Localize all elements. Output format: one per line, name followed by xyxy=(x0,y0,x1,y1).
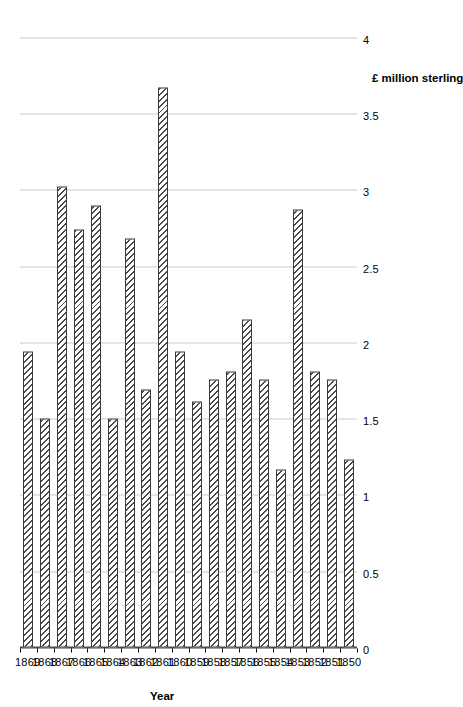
bar-1857 xyxy=(226,371,236,647)
plot-box xyxy=(20,38,357,648)
value-axis-title: £ million sterling xyxy=(372,71,463,83)
value-tick-label-4: 4 xyxy=(363,34,369,45)
category-tick xyxy=(87,648,88,652)
category-tick xyxy=(323,648,324,652)
bar-1865 xyxy=(91,205,101,647)
category-tick xyxy=(205,648,206,652)
bar-1850 xyxy=(344,459,354,647)
bar-1859 xyxy=(192,401,202,647)
category-tick xyxy=(172,648,173,652)
bar-1853 xyxy=(293,209,303,647)
category-tick xyxy=(357,648,358,652)
category-tick xyxy=(222,648,223,652)
value-tick-label-2.5: 2.5 xyxy=(363,263,379,274)
bar-1867 xyxy=(57,186,67,647)
bar-1852 xyxy=(310,371,320,647)
bar-1868 xyxy=(40,418,50,647)
bar-1860 xyxy=(175,351,185,647)
value-tick-label-3: 3 xyxy=(363,187,369,198)
category-tick xyxy=(340,648,341,652)
category-tick xyxy=(121,648,122,652)
value-tick-label-0: 0 xyxy=(363,644,369,655)
bar-1866 xyxy=(74,229,84,647)
bar-1855 xyxy=(259,379,269,647)
value-tick-label-1: 1 xyxy=(363,492,369,503)
value-tick-label-2: 2 xyxy=(363,339,369,350)
value-tick-label-0.5: 0.5 xyxy=(363,568,379,579)
category-tick xyxy=(155,648,156,652)
bar-series xyxy=(20,38,357,648)
bar-1869 xyxy=(23,351,33,647)
category-tick xyxy=(104,648,105,652)
category-tick xyxy=(37,648,38,652)
bar-1858 xyxy=(209,379,219,647)
bar-1856 xyxy=(242,319,252,647)
bar-1863 xyxy=(125,238,135,647)
category-tick xyxy=(273,648,274,652)
category-axis-title: Year xyxy=(150,689,174,701)
category-tick xyxy=(20,648,21,652)
category-tick xyxy=(138,648,139,652)
bar-1862 xyxy=(141,389,151,647)
category-tick xyxy=(189,648,190,652)
bar-1854 xyxy=(276,469,286,647)
category-tick xyxy=(306,648,307,652)
bar-1861 xyxy=(158,87,168,647)
value-tick-label-3.5: 3.5 xyxy=(363,110,379,121)
category-tick xyxy=(54,648,55,652)
category-tick-label-1850: 1850 xyxy=(336,656,361,667)
category-tick xyxy=(239,648,240,652)
value-tick-label-1.5: 1.5 xyxy=(363,415,379,426)
category-tick xyxy=(71,648,72,652)
bar-1851 xyxy=(327,379,337,647)
category-tick xyxy=(256,648,257,652)
bar-1864 xyxy=(108,418,118,647)
category-tick xyxy=(290,648,291,652)
